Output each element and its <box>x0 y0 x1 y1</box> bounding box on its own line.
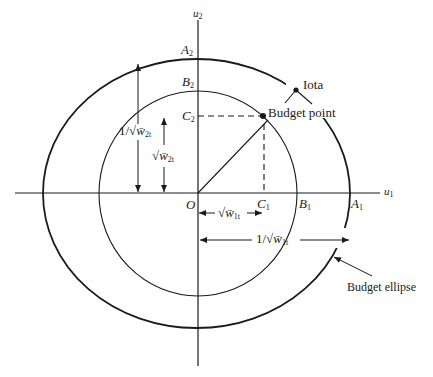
iota-leader-right <box>296 90 312 104</box>
sqrt-w2t-label: √w̄2t <box>152 149 174 164</box>
budget-point-dot <box>260 113 266 119</box>
iota-label: Iota <box>303 78 323 91</box>
budget-ellipse-pointer <box>334 257 372 276</box>
radius-line <box>198 120 268 193</box>
c2-label: C2 <box>182 109 195 124</box>
u2-axis-label: u2 <box>193 8 203 21</box>
inv-sqrt-w1t-label: 1/√w̄1t <box>256 232 288 247</box>
iota-leader-left <box>285 90 296 103</box>
budget-point-label: Budget point <box>268 106 336 119</box>
c1-label: C1 <box>257 197 270 212</box>
sqrt-w1t-label: √w̄1t <box>218 206 240 221</box>
b1-label: B1 <box>299 197 311 212</box>
a2-label: A2 <box>181 43 193 58</box>
a1-label: A1 <box>351 197 363 212</box>
inv-sqrt-w2t-label: 1/√w̄2t <box>119 124 151 139</box>
origin-label: O <box>186 198 195 211</box>
u1-axis-label: u1 <box>384 186 394 199</box>
diagram-canvas <box>0 0 433 377</box>
b2-label: B2 <box>182 75 194 90</box>
budget-ellipse-label: Budget ellipse <box>347 281 416 293</box>
